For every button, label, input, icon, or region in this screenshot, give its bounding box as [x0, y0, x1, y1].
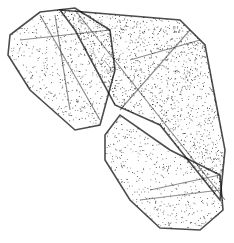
- attractor-plot: [0, 0, 234, 243]
